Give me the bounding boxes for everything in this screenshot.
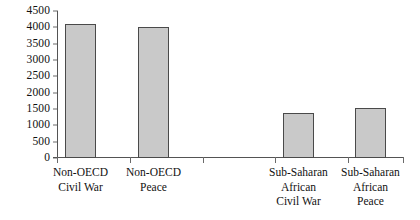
x-axis-category-label-line: African: [323, 180, 419, 195]
y-axis-tick-label: 2500: [2, 71, 50, 83]
plot-area: [57, 11, 404, 158]
x-axis-category-label-line: Peace: [323, 194, 419, 209]
y-axis-tick-label: 500: [2, 136, 50, 148]
x-axis-category-label-line: Peace: [106, 180, 202, 195]
x-axis-category-label-line: Non-OECD: [106, 165, 202, 180]
y-axis-tick-label: 0: [2, 152, 50, 164]
y-axis-tick-label: 1500: [2, 103, 50, 115]
bar: [138, 27, 169, 158]
bar: [355, 108, 386, 158]
bar: [65, 24, 96, 158]
x-axis-category-label-line: Sub-Saharan: [323, 165, 419, 180]
x-axis-category-label: Sub-SaharanAfricanPeace: [323, 165, 419, 209]
y-axis-tick-label: 1000: [2, 120, 50, 132]
y-axis-tick-label: 4000: [2, 22, 50, 34]
y-axis-tick-label: 3500: [2, 38, 50, 50]
bar: [283, 113, 314, 158]
y-axis-tick-label: 4500: [2, 5, 50, 17]
y-axis-tick-label: 2000: [2, 87, 50, 99]
y-axis-tick-label: 3000: [2, 54, 50, 66]
x-axis-category-label: Non-OECDPeace: [106, 165, 202, 194]
bar-chart: 450040003500300025002000150010005000 Non…: [0, 0, 420, 220]
x-axis-labels: Non-OECDCivil WarNon-OECDPeaceSub-Sahara…: [0, 165, 420, 220]
